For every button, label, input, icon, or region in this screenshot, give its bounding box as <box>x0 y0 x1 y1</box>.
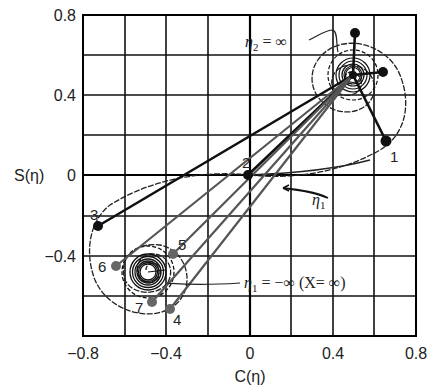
svg-text:0.8: 0.8 <box>405 345 427 362</box>
svg-text:−0.4: −0.4 <box>44 248 76 265</box>
point-label-2: 2 <box>242 154 250 171</box>
svg-text:η1: η1 <box>312 191 325 211</box>
svg-text:0: 0 <box>67 167 76 184</box>
point-label-1: 1 <box>390 148 398 165</box>
point-label-4: 4 <box>173 311 181 328</box>
point-right <box>378 67 388 77</box>
svg-text:0.4: 0.4 <box>54 87 76 104</box>
annotation-eta1: η1 <box>283 185 328 211</box>
y-axis-ticks: 0.8 0.4 0 −0.4 <box>44 7 76 265</box>
point-label-5: 5 <box>178 236 186 253</box>
point-1 <box>381 136 392 147</box>
svg-text:η2 = ∞: η2 = ∞ <box>245 33 287 53</box>
x-axis-label: C(η) <box>234 368 265 385</box>
point-label-3: 3 <box>90 206 98 223</box>
svg-text:−0.4: −0.4 <box>150 345 182 362</box>
point-6 <box>111 261 121 271</box>
svg-text:−0.8: −0.8 <box>67 345 99 362</box>
svg-text:η1 = −∞ (X= ∞): η1 = −∞ (X= ∞) <box>244 274 346 294</box>
cornu-spiral-chart: 1 2 3 4 5 6 7 η2 = ∞ η1 η1 = −∞ (X= ∞) −… <box>0 0 436 386</box>
svg-text:0.8: 0.8 <box>54 7 76 24</box>
point-center-upper <box>349 71 357 79</box>
point-label-7: 7 <box>135 299 143 316</box>
point-2 <box>243 170 253 180</box>
point-5 <box>168 249 178 259</box>
point-label-6: 6 <box>98 258 106 275</box>
svg-text:0.4: 0.4 <box>322 345 344 362</box>
x-axis-ticks: −0.8 −0.4 0 0.4 0.8 <box>67 345 427 362</box>
point-top <box>350 28 360 38</box>
y-axis-label: S(η) <box>14 167 44 184</box>
point-7 <box>147 297 157 307</box>
svg-text:0: 0 <box>246 345 255 362</box>
